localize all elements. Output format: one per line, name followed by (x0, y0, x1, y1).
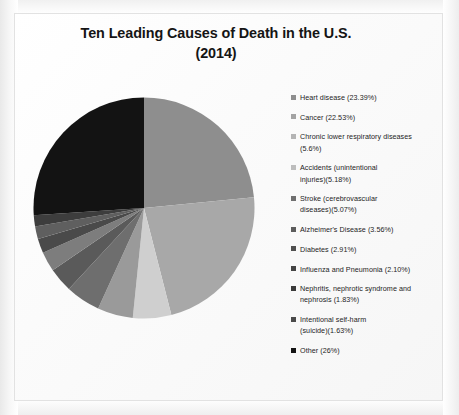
page-edge-bottom (0, 399, 459, 415)
legend-item[interactable]: Cancer (22.53%) (291, 112, 443, 123)
chart-legend: Heart disease (23.39%)Cancer (22.53%)Chr… (291, 92, 443, 365)
legend-swatch-icon (291, 266, 296, 271)
legend-item[interactable]: Heart disease (23.39%) (291, 92, 443, 103)
legend-swatch-icon (291, 348, 296, 353)
pie-slice[interactable] (144, 98, 254, 209)
legend-item-label: Chronic lower respiratory diseases (5.6%… (300, 131, 412, 153)
pie-chart-svg (33, 97, 255, 319)
legend-item-label: Influenza and Pneumonia (2.10%) (300, 264, 410, 275)
legend-item[interactable]: Accidents (unintentional injuries)(5.18%… (291, 162, 443, 184)
legend-swatch-icon (291, 114, 296, 119)
legend-swatch-icon (291, 95, 296, 100)
legend-item[interactable]: Alzheimer's Disease (3.56%) (291, 224, 443, 235)
page-title-line-2: (2014) (30, 43, 402, 63)
slide-canvas: Ten Leading Causes of Death in the U.S. … (0, 0, 459, 415)
legend-item-label: Heart disease (23.39%) (300, 92, 377, 103)
legend-item[interactable]: Intentional self-harm (suicide)(1.63%) (291, 314, 443, 336)
legend-swatch-icon (291, 317, 296, 322)
legend-item[interactable]: Nephritis, nephrotic syndrome and nephro… (291, 283, 443, 305)
legend-swatch-icon (291, 286, 296, 291)
legend-item-label: Other (26%) (300, 345, 340, 356)
page-title: Ten Leading Causes of Death in the U.S. … (30, 23, 402, 63)
page-title-line-1: Ten Leading Causes of Death in the U.S. (30, 23, 402, 43)
legend-swatch-icon (291, 246, 296, 251)
legend-swatch-icon (291, 227, 296, 232)
legend-item-label: Alzheimer's Disease (3.56%) (300, 224, 393, 235)
pie-slice-group (33, 98, 254, 319)
legend-item[interactable]: Diabetes (2.91%) (291, 244, 443, 255)
legend-swatch-icon (291, 134, 296, 139)
legend-item-label: Accidents (unintentional injuries)(5.18%… (300, 162, 378, 184)
legend-item-label: Cancer (22.53%) (300, 112, 355, 123)
legend-item-label: Diabetes (2.91%) (300, 244, 356, 255)
legend-item-label: Intentional self-harm (suicide)(1.63%) (300, 314, 366, 336)
page-edge-right (443, 0, 459, 415)
pie-chart (33, 97, 255, 319)
legend-swatch-icon (291, 196, 296, 201)
legend-item[interactable]: Chronic lower respiratory diseases (5.6%… (291, 131, 443, 153)
pie-slice[interactable] (33, 98, 144, 216)
page-edge-top (0, 0, 459, 14)
legend-item-label: Stroke (cerebrovascular diseases)(5.07%) (300, 193, 377, 215)
legend-item[interactable]: Influenza and Pneumonia (2.10%) (291, 264, 443, 275)
legend-item[interactable]: Other (26%) (291, 345, 443, 356)
legend-swatch-icon (291, 165, 296, 170)
legend-item-label: Nephritis, nephrotic syndrome and nephro… (300, 283, 411, 305)
legend-item[interactable]: Stroke (cerebrovascular diseases)(5.07%) (291, 193, 443, 215)
